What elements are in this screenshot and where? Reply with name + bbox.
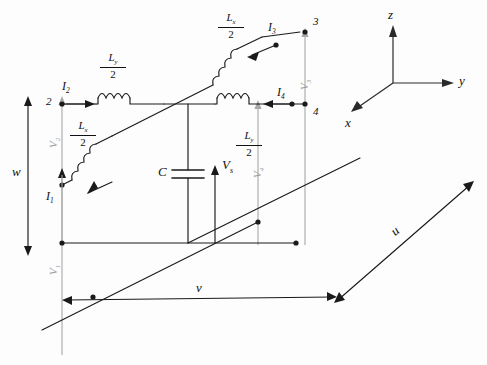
axis-label-y: y [459, 74, 465, 87]
circuit-diagram-canvas: z y x 2 3 4 I2 I1 I3 I4 V2 V1 V3 V4 Vs C… [0, 0, 487, 365]
voltage-label-V4: V4 [252, 168, 266, 178]
axes-triad [0, 0, 487, 365]
node-label-3: 3 [313, 16, 319, 27]
axis-line-x [357, 83, 393, 108]
inductor-label-left-lower: Lx 2 [70, 120, 96, 148]
dimension-label-w: w [12, 165, 21, 178]
inductor-label-upper-mid: Ly 2 [100, 52, 126, 80]
axis-label-x: x [345, 116, 351, 129]
axis-label-z: z [388, 8, 393, 21]
arrowhead-axis-z [389, 25, 397, 37]
voltage-label-V2: V2 [48, 138, 62, 148]
inductor-label-top-right: Lx 2 [218, 12, 244, 40]
dimension-label-v: v [196, 281, 202, 294]
capacitor-label: C [158, 165, 167, 178]
voltage-label-V1: V1 [48, 265, 62, 275]
current-label-I1: I1 [46, 190, 54, 205]
current-label-I3: I3 [268, 21, 276, 36]
voltage-label-Vs: Vs [222, 158, 233, 175]
arrowhead-axis-x [351, 101, 363, 112]
arrowhead-axis-y [442, 79, 454, 87]
inductor-label-right-mid: Ly 2 [236, 130, 262, 158]
voltage-label-V3-grey: V3 [299, 80, 313, 90]
current-label-I2: I2 [62, 80, 70, 95]
node-label-2: 2 [46, 96, 52, 107]
current-label-I4: I4 [277, 86, 285, 101]
node-label-4: 4 [313, 106, 319, 117]
